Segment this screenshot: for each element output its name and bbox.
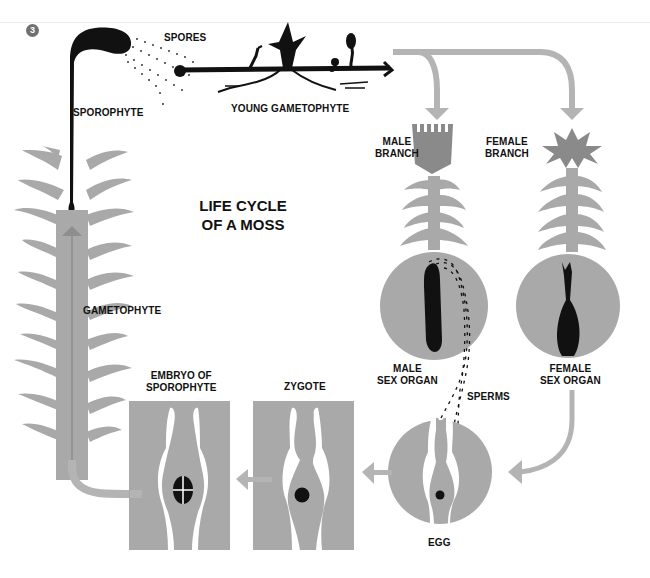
- title-line-1: LIFE CYCLE: [188, 196, 298, 215]
- label-female-sex-organ-line-2: SEX ORGAN: [540, 375, 601, 387]
- female-sex-organ-icon: [516, 254, 620, 358]
- label-female-branch-line-1: FEMALE: [485, 136, 529, 148]
- label-female-sex-organ: FEMALE SEX ORGAN: [540, 363, 601, 387]
- arrow-head-male-branch: [425, 108, 449, 120]
- label-egg: EGG: [428, 537, 451, 549]
- arrow-head-to-egg: [508, 460, 522, 484]
- label-embryo-of-sporophyte: EMBRYO OF SPOROPHYTE: [146, 370, 216, 394]
- label-zygote: ZYGOTE: [284, 381, 326, 393]
- label-male-sex-organ-line-2: SEX ORGAN: [377, 375, 438, 387]
- label-female-branch-line-2: BRANCH: [485, 148, 529, 160]
- label-male-sex-organ: MALE SEX ORGAN: [377, 363, 438, 387]
- label-male-branch: MALE BRANCH: [375, 136, 419, 160]
- label-female-branch: FEMALE BRANCH: [485, 136, 529, 160]
- label-male-branch-line-1: MALE: [375, 136, 419, 148]
- label-sporophyte: SPOROPHYTE: [73, 107, 143, 119]
- arrow-to-branches: [393, 52, 572, 108]
- figure-number-badge: 3: [26, 24, 39, 37]
- arrow-head-female-branch: [560, 108, 584, 120]
- label-young-gametophyte: YOUNG GAMETOPHYTE: [231, 103, 349, 115]
- male-sex-organ-icon: [380, 252, 488, 360]
- label-female-sex-organ-line-1: FEMALE: [540, 363, 601, 375]
- label-sperms: SPERMS: [467, 391, 510, 403]
- label-male-sex-organ-line-1: MALE: [377, 363, 438, 375]
- young-gametophyte-icon: [174, 22, 392, 92]
- diagram-title: LIFE CYCLE OF A MOSS: [188, 196, 298, 234]
- egg-organ-icon: [388, 416, 492, 528]
- label-spores: SPORES: [164, 32, 206, 44]
- zygote-box-icon: [253, 401, 354, 550]
- arrow-embryo-stub: [130, 490, 142, 498]
- arrow-female-to-egg: [520, 390, 572, 472]
- arrow-egg-to-zygote: [362, 462, 392, 484]
- label-embryo-line-2: SPOROPHYTE: [146, 382, 216, 394]
- label-embryo-line-1: EMBRYO OF: [146, 370, 216, 382]
- label-male-branch-line-2: BRANCH: [375, 148, 419, 160]
- moss-life-cycle-diagram: [0, 0, 650, 578]
- embryo-box-icon: [129, 401, 230, 550]
- female-branch-icon: [538, 128, 606, 252]
- label-gametophyte: GAMETOPHYTE: [83, 305, 161, 317]
- title-line-2: OF A MOSS: [188, 215, 298, 234]
